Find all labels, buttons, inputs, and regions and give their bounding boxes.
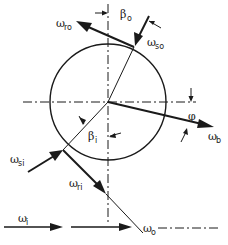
omega-ro-arrowhead-icon	[76, 21, 92, 32]
svg-text:o: o	[127, 14, 132, 23]
diagram-canvas: ω ro β o ω so φ ω b β i ω si ω ri ω i ω …	[0, 0, 228, 245]
omega-i-arrowhead-icon	[50, 223, 63, 231]
svg-text:si: si	[18, 159, 24, 168]
phi-bottom-arrow-icon	[183, 128, 188, 135]
omega-o-base-arrowhead-icon	[119, 223, 132, 231]
phi-top-arrow-icon	[189, 96, 194, 102]
radius-to-inlet-point	[63, 102, 108, 150]
omega-b-arrowhead-icon	[197, 119, 214, 128]
label-phi: φ	[188, 110, 196, 123]
svg-text:i: i	[95, 136, 97, 145]
label-omega-so: ω so	[147, 36, 164, 51]
svg-text:ro: ro	[64, 23, 72, 32]
label-omega-i: ω i	[18, 212, 28, 227]
omega-si-vector	[28, 156, 54, 172]
svg-text:so: so	[155, 42, 164, 51]
label-omega-o: ω o	[143, 222, 156, 237]
label-omega-b: ω b	[208, 130, 221, 145]
svg-text:i: i	[26, 218, 28, 227]
label-beta-i: β i	[88, 130, 97, 145]
label-omega-ro: ω ro	[56, 17, 72, 32]
svg-text:β: β	[120, 8, 126, 21]
svg-text:o: o	[151, 228, 156, 237]
radius-to-outlet-point	[108, 47, 134, 102]
label-beta-o: β o	[120, 8, 132, 23]
beta-o-arrow-icon	[102, 11, 108, 16]
omega-so-vector	[139, 16, 149, 36]
svg-text:φ: φ	[188, 110, 196, 123]
label-omega-ri: ω ri	[69, 177, 83, 192]
svg-text:ri: ri	[77, 183, 83, 192]
label-omega-si: ω si	[10, 153, 24, 168]
omega-si-arrowhead-icon	[49, 150, 63, 161]
svg-text:β: β	[88, 130, 94, 143]
svg-text:b: b	[216, 136, 221, 145]
omega-so-arrowhead-icon	[134, 32, 143, 46]
